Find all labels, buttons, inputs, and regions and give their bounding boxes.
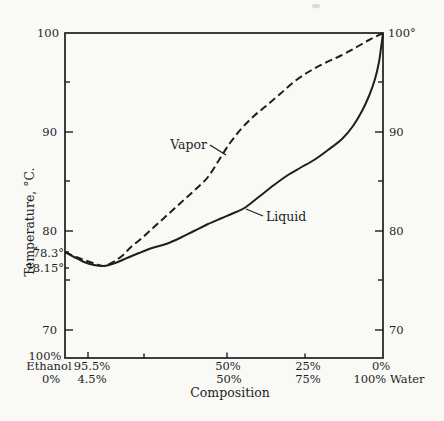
vapor-curve — [65, 33, 383, 266]
x-label-0pct-water: 0% — [42, 372, 60, 386]
boiling-point-diagram: 100 90 80 78.3° 78.15° 70 100° 90 80 70 … — [0, 0, 444, 421]
y-left-label-80: 80 — [42, 224, 57, 238]
vapor-label: Vapor — [169, 137, 207, 152]
x-label-ethanol: Ethanol — [26, 359, 72, 373]
y-left-label-90: 90 — [42, 125, 57, 139]
x-axis-title: Composition — [190, 385, 269, 400]
liquid-leader-line — [246, 209, 263, 216]
y-left-label-78-3: 78.3° — [33, 246, 64, 260]
vapor-leader-line — [210, 145, 226, 155]
x-label-75pct-water: 75% — [295, 372, 321, 386]
y-right-label-100: 100° — [388, 26, 416, 40]
y-axis-title: Temperature, °C. — [22, 167, 37, 276]
y-right-label-70: 70 — [389, 323, 404, 337]
y-right-label-90: 90 — [389, 125, 404, 139]
x-label-0pct-ethanol: 0% — [372, 359, 390, 373]
y-right-label-80: 80 — [389, 224, 404, 238]
y-left-label-100: 100 — [37, 26, 59, 40]
x-label-25pct-ethanol: 25% — [295, 359, 321, 373]
plot-frame — [65, 33, 383, 358]
liquid-curve — [65, 33, 383, 266]
x-label-50pct-ethanol: 50% — [215, 359, 241, 373]
x-label-4-5pct-water: 4.5% — [77, 372, 106, 386]
x-label-50pct-water: 50% — [216, 372, 242, 386]
x-label-100pct-water: 100% Water — [353, 372, 425, 386]
y-left-label-70: 70 — [42, 323, 57, 337]
x-label-95-5pct: 95.5% — [74, 359, 111, 373]
liquid-label: Liquid — [266, 209, 306, 224]
phase-diagram-figure: 100 90 80 78.3° 78.15° 70 100° 90 80 70 … — [0, 0, 444, 421]
scan-artifact-dot — [312, 4, 320, 9]
